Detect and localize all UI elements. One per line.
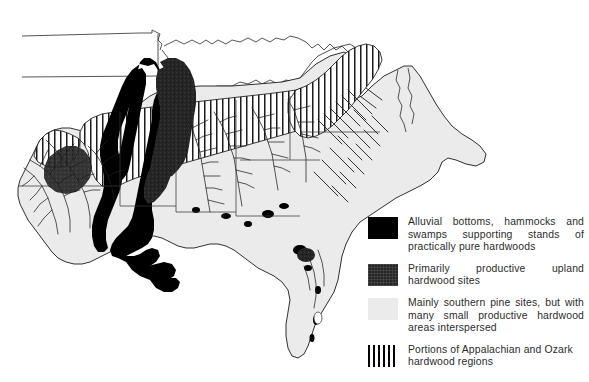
legend-swatch-pine bbox=[368, 298, 398, 320]
legend-item: Mainly southern pine sites, but with man… bbox=[368, 297, 586, 335]
map-figure: Alluvial bottoms, hammocks and swamps su… bbox=[0, 0, 589, 382]
legend-item: Portions of Appalachian and Ozark hardwo… bbox=[368, 344, 586, 369]
legend-label-pine: Mainly southern pine sites, but with man… bbox=[408, 297, 584, 335]
legend-item: Alluvial bottoms, hammocks and swamps su… bbox=[368, 216, 586, 254]
legend-label-upland: Primarily productive upland hardwood sit… bbox=[408, 263, 584, 288]
legend-swatch-upland bbox=[368, 264, 398, 286]
lake-okeechobee bbox=[314, 312, 322, 324]
legend-label-alluvial: Alluvial bottoms, hammocks and swamps su… bbox=[408, 216, 584, 254]
legend-swatch-alluvial bbox=[368, 217, 398, 239]
legend-swatch-striped bbox=[368, 345, 398, 367]
legend-label-striped: Portions of Appalachian and Ozark hardwo… bbox=[408, 344, 584, 369]
map-legend: Alluvial bottoms, hammocks and swamps su… bbox=[368, 216, 586, 378]
legend-item: Primarily productive upland hardwood sit… bbox=[368, 263, 586, 288]
